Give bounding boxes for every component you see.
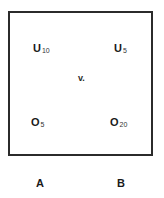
item-subscript: 5 (41, 121, 45, 128)
diagram-frame (8, 11, 153, 156)
item-symbol: U (114, 42, 122, 54)
item-u10: U10 (33, 39, 50, 55)
item-symbol: U (33, 42, 41, 54)
column-label-a: A (36, 178, 44, 189)
center-label: v. (78, 74, 85, 83)
item-symbol: O (31, 116, 40, 128)
item-subscript: 20 (120, 121, 128, 128)
item-symbol: O (110, 116, 119, 128)
column-label-b: B (117, 178, 125, 189)
item-subscript: 5 (123, 47, 127, 54)
item-o20: O20 (110, 113, 127, 129)
item-u5: U5 (114, 39, 127, 55)
item-o5: O5 (31, 113, 44, 129)
item-subscript: 10 (42, 47, 50, 54)
